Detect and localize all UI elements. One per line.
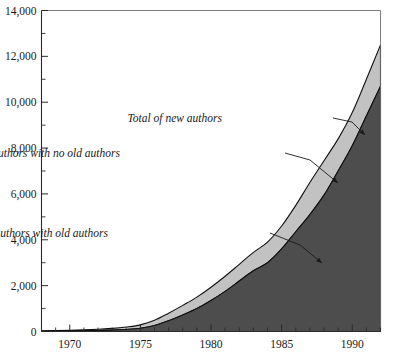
x-tick-label: 1980 [200, 338, 223, 350]
x-tick-label: 1970 [58, 338, 81, 350]
annotation-label: New authors with old authors [0, 227, 109, 239]
y-tick-label: 2,000 [11, 280, 37, 293]
y-tick-label: 0 [31, 326, 37, 338]
chart-canvas: 02,0004,0006,0008,00010,00012,00014,0001… [0, 0, 403, 363]
x-tick-label: 1990 [341, 338, 364, 350]
y-tick-label: 6,000 [11, 188, 37, 201]
annotation-label: New authors with no old authors [0, 147, 121, 159]
y-tick-label: 10,000 [5, 96, 37, 109]
x-tick-label: 1975 [129, 338, 152, 350]
annotation-label: Total of new authors [128, 112, 223, 125]
x-tick-label: 1985 [270, 338, 293, 350]
y-tick-label: 12,000 [5, 50, 37, 63]
y-tick-label: 14,000 [5, 5, 37, 18]
area-chart: 02,0004,0006,0008,00010,00012,00014,0001… [0, 0, 403, 363]
